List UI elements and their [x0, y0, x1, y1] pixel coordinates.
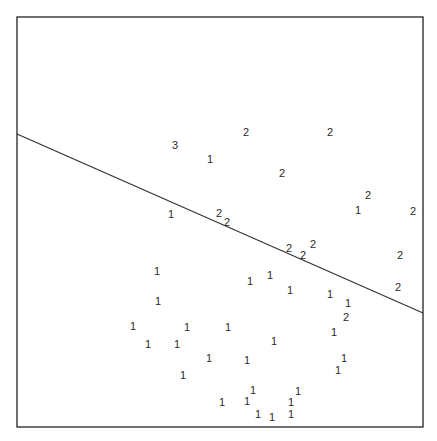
data-point-class-1: 1	[345, 297, 351, 309]
data-point-class-1: 1	[247, 275, 253, 287]
data-point-class-2: 2	[395, 281, 401, 293]
data-point-class-2: 2	[243, 126, 249, 138]
scatter-plot: 3222222222222211111111111111111111111111…	[0, 0, 437, 441]
data-point-class-1: 1	[180, 369, 186, 381]
data-point-class-1: 1	[255, 408, 261, 420]
data-points: 3222222222222211111111111111111111111111…	[130, 126, 416, 423]
data-point-class-2: 2	[216, 207, 222, 219]
data-point-class-1: 1	[287, 284, 293, 296]
data-point-class-1: 1	[155, 295, 161, 307]
data-point-class-1: 1	[168, 208, 174, 220]
data-point-class-1: 1	[267, 269, 273, 281]
data-point-class-2: 2	[300, 249, 306, 261]
data-point-class-1: 1	[184, 321, 190, 333]
data-point-class-2: 2	[279, 167, 285, 179]
data-point-class-2: 2	[286, 242, 292, 254]
data-point-class-1: 1	[288, 408, 294, 420]
data-point-class-1: 1	[207, 153, 213, 165]
data-point-class-1: 1	[145, 338, 151, 350]
data-point-class-1: 1	[154, 265, 160, 277]
data-point-class-1: 1	[250, 384, 256, 396]
data-point-class-1: 1	[206, 352, 212, 364]
decision-boundary-line	[17, 134, 423, 313]
data-point-class-2: 2	[343, 311, 349, 323]
plot-frame	[17, 17, 423, 427]
data-point-class-1: 1	[174, 338, 180, 350]
data-point-class-2: 2	[224, 216, 230, 228]
data-point-class-1: 1	[271, 335, 277, 347]
data-point-class-2: 2	[397, 249, 403, 261]
data-point-class-1: 1	[219, 396, 225, 408]
data-point-class-2: 2	[310, 238, 316, 250]
data-point-class-2: 2	[327, 126, 333, 138]
data-point-class-1: 1	[130, 320, 136, 332]
data-point-class-1: 1	[244, 354, 250, 366]
data-point-class-1: 1	[355, 204, 361, 216]
data-point-class-1: 1	[295, 385, 301, 397]
data-point-class-2: 2	[365, 189, 371, 201]
data-point-class-1: 1	[335, 364, 341, 376]
data-point-class-1: 1	[341, 352, 347, 364]
data-point-class-2: 2	[410, 205, 416, 217]
data-point-class-1: 1	[288, 396, 294, 408]
data-point-class-3: 3	[172, 139, 178, 151]
data-point-class-1: 1	[269, 411, 275, 423]
data-point-class-1: 1	[331, 326, 337, 338]
data-point-class-1: 1	[225, 321, 231, 333]
data-point-class-1: 1	[244, 395, 250, 407]
data-point-class-1: 1	[327, 288, 333, 300]
